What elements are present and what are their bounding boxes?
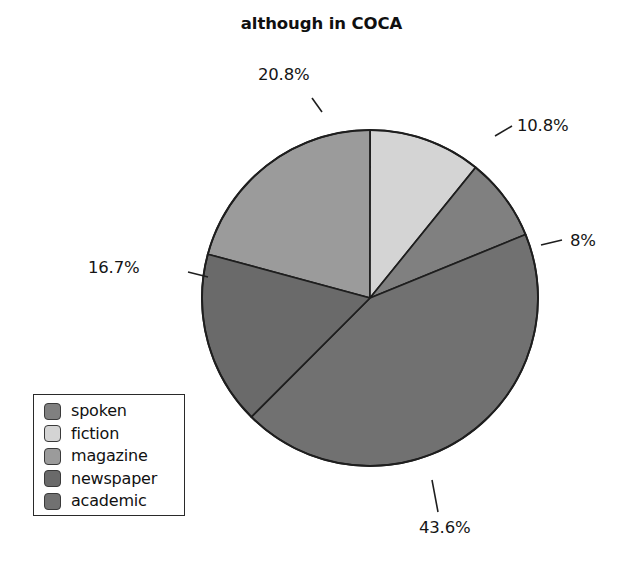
legend-swatch-icon	[44, 470, 61, 487]
pie-label-fiction: 10.8%	[517, 116, 568, 135]
leader-line-spoken	[541, 240, 562, 245]
chart-legend: spoken fiction magazine newspaper academ…	[33, 394, 185, 516]
legend-swatch-icon	[44, 425, 61, 442]
pie-label-spoken: 8%	[570, 231, 596, 250]
legend-item-academic[interactable]: academic	[44, 490, 184, 513]
pie-slices	[202, 130, 538, 466]
legend-swatch-icon	[44, 403, 61, 420]
legend-swatch-icon	[44, 493, 61, 510]
legend-swatch-icon	[44, 448, 61, 465]
leader-line-academic	[432, 480, 438, 512]
pie-chart-figure: although in COCA 20.8% 10.8% 8% 16.7% 43…	[0, 0, 643, 569]
leader-line-magazine	[312, 98, 322, 112]
legend-item-spoken[interactable]: spoken	[44, 400, 184, 423]
pie-label-academic: 43.6%	[419, 518, 470, 537]
leader-line-fiction	[495, 126, 512, 136]
legend-label: fiction	[71, 426, 119, 442]
legend-item-fiction[interactable]: fiction	[44, 423, 184, 446]
legend-label: academic	[71, 493, 147, 509]
legend-label: magazine	[71, 448, 148, 464]
legend-label: newspaper	[71, 471, 157, 487]
pie-label-newspaper: 16.7%	[88, 258, 139, 277]
legend-item-newspaper[interactable]: newspaper	[44, 468, 184, 491]
pie-label-magazine: 20.8%	[258, 65, 309, 84]
legend-item-magazine[interactable]: magazine	[44, 445, 184, 468]
legend-label: spoken	[71, 403, 127, 419]
